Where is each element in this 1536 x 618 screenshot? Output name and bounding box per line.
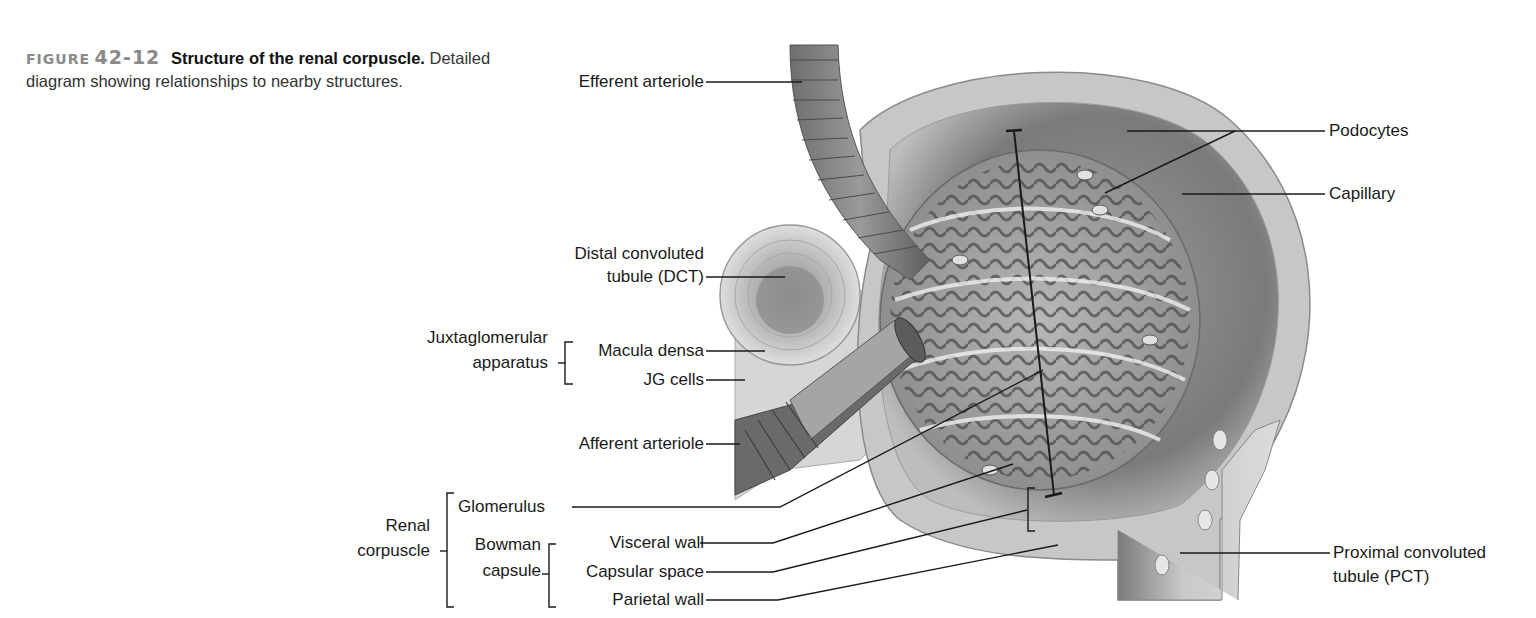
- jga-bracket: [565, 342, 573, 384]
- renal-corpuscle-illustration: [0, 0, 1536, 618]
- label-renal-line2: corpuscle: [357, 541, 430, 561]
- label-bowman-line2: capsule: [482, 561, 541, 581]
- label-dct-line1: Distal convoluted: [575, 244, 704, 264]
- label-glomerulus: Glomerulus: [458, 497, 545, 517]
- label-efferent-arteriole: Efferent arteriole: [579, 72, 704, 92]
- label-jg-cells: JG cells: [644, 370, 704, 390]
- label-parietal-wall: Parietal wall: [612, 590, 704, 610]
- dct-tubule: [720, 225, 860, 365]
- label-capillary: Capillary: [1329, 184, 1395, 204]
- renal-corpuscle-bracket: [447, 493, 454, 607]
- label-visceral-wall: Visceral wall: [610, 533, 704, 553]
- label-pct-line1: Proximal convoluted: [1333, 543, 1486, 563]
- label-afferent-arteriole: Afferent arteriole: [579, 434, 704, 454]
- label-podocytes: Podocytes: [1329, 121, 1408, 141]
- label-pct-line2: tubule (PCT): [1333, 567, 1429, 587]
- label-renal-line1: Renal: [386, 516, 430, 536]
- label-bowman-line1: Bowman: [475, 535, 541, 555]
- label-macula-densa: Macula densa: [598, 341, 704, 361]
- label-capsular-space: Capsular space: [586, 562, 704, 582]
- bowman-capsule-bracket: [549, 544, 556, 607]
- label-jga-line1: Juxtaglomerular: [427, 328, 548, 348]
- glomerulus: [880, 150, 1200, 490]
- label-dct-line2: tubule (DCT): [607, 267, 704, 287]
- label-jga-line2: apparatus: [472, 353, 548, 373]
